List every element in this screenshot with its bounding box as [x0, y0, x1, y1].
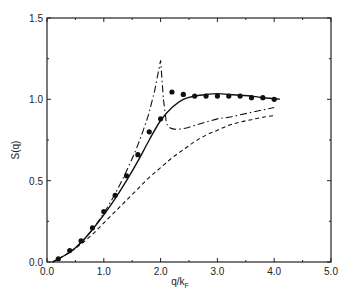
- x-tick-label: 3.0: [210, 266, 224, 277]
- x-tick-label: 4.0: [267, 266, 281, 277]
- data-point-marker: [169, 89, 174, 94]
- dash-dot-curve: [53, 60, 275, 262]
- x-tick-label: 1.0: [97, 266, 111, 277]
- chart: 0.01.02.03.04.05.00.00.51.01.5 S(q) q/kF: [0, 0, 352, 301]
- x-axis-title-sub: F: [185, 282, 189, 289]
- x-axis-title-main: q/k: [171, 276, 185, 287]
- data-point-marker: [181, 92, 186, 97]
- x-axis-title: q/kF: [171, 276, 189, 289]
- plot-series: [53, 60, 280, 262]
- y-tick-label: 0.5: [29, 176, 43, 187]
- data-point-marker: [147, 129, 152, 134]
- tick-labels: 0.01.02.03.04.05.00.00.51.01.5: [29, 13, 338, 277]
- y-tick-label: 1.0: [29, 94, 43, 105]
- y-tick-label: 1.5: [29, 13, 43, 24]
- y-tick-label: 0.0: [29, 257, 43, 268]
- dashed-curve: [53, 116, 275, 262]
- y-axis-title: S(q): [10, 141, 21, 160]
- axes-frame: [47, 18, 331, 262]
- x-tick-label: 5.0: [324, 266, 338, 277]
- plot-frame: [47, 18, 331, 262]
- x-tick-label: 2.0: [154, 266, 168, 277]
